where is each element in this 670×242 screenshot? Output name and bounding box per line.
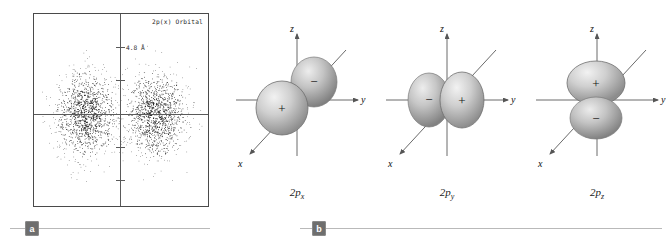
panel-a-rule [10, 228, 210, 229]
x-axis-label: x [237, 158, 243, 169]
lobe-sign-negative: − [592, 111, 599, 126]
lobe-sign-positive: + [458, 93, 465, 108]
z-axis-label: z [289, 23, 294, 34]
scale-label: 4.8 Å [126, 44, 145, 51]
panel-b-rule [300, 228, 662, 229]
z-axis-label: z [439, 23, 444, 34]
panel-a-dot-plot: 2p(x) Orbital 4.8 Å [0, 0, 222, 242]
orbital-diagram-2px: − + z y x 2px [222, 8, 372, 213]
panel-badge-a: a [25, 221, 39, 236]
lobe-sign-negative: − [425, 92, 432, 107]
orbital-diagram-2py: − + z y x 2py [372, 8, 522, 213]
orbital-caption-2py: 2py [372, 186, 522, 201]
horizontal-axis [34, 114, 208, 115]
dot-plot-frame: 2p(x) Orbital 4.8 Å [33, 13, 209, 207]
y-axis-label: y [360, 94, 366, 105]
lobe-sign-negative: − [310, 74, 317, 89]
orbital-label: 2p(x) Orbital [152, 18, 203, 25]
electron-density-dots [34, 14, 208, 206]
axis-tick [116, 180, 125, 181]
x-axis-label: x [387, 158, 393, 169]
panel-b-orbital-diagrams: − + z y x 2px [222, 0, 670, 242]
lobe-sign-positive: + [592, 76, 599, 91]
y-axis-label: y [660, 94, 666, 105]
orbital-caption-2pz: 2pz [522, 186, 670, 201]
x-axis-label: x [537, 158, 543, 169]
p-orbital-figure: 2p(x) Orbital 4.8 Å [0, 0, 670, 242]
orbital-caption-2px: 2px [222, 186, 372, 201]
panel-badge-b: b [312, 221, 326, 236]
axis-tick [116, 47, 125, 48]
axis-tick [116, 80, 125, 81]
axis-tick [116, 147, 125, 148]
lobe-sign-positive: + [278, 101, 285, 116]
vertical-axis [120, 14, 121, 206]
y-axis-label: y [510, 94, 516, 105]
z-axis-label: z [589, 23, 594, 34]
orbital-diagram-2pz: + − z y x 2pz [522, 8, 670, 213]
